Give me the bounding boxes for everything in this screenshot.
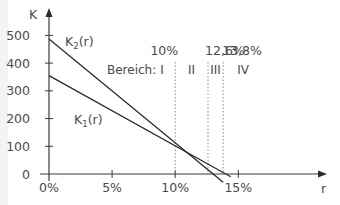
region-boundary-label: 10% xyxy=(150,43,178,58)
regions-label: Bereich: xyxy=(107,63,156,77)
y-tick-label: 0 xyxy=(22,167,30,182)
region-label: II xyxy=(188,63,195,77)
region-label: IV xyxy=(237,63,250,77)
x-axis-label: r xyxy=(321,181,327,196)
y-tick-label: 200 xyxy=(6,111,30,126)
x-tick-label: 10% xyxy=(161,180,189,195)
series-label-k1: K1(r) xyxy=(74,112,103,129)
series-label-k2: K2(r) xyxy=(65,34,94,51)
region-boundary-label: 13,8% xyxy=(222,43,262,58)
series-lines xyxy=(49,39,231,182)
y-axis-label: K xyxy=(29,7,38,22)
chart: K r 0100200300400500 0%5%10%15% 10%12,6%… xyxy=(0,0,340,205)
y-tick-label: 100 xyxy=(6,139,30,154)
x-axis-arrow-icon xyxy=(318,171,327,178)
y-tick-label: 300 xyxy=(6,83,30,98)
y-tick-label: 500 xyxy=(6,28,30,43)
y-tick-label: 400 xyxy=(6,56,30,71)
x-tick-label: 5% xyxy=(102,180,122,195)
series-line xyxy=(49,39,223,182)
x-tick-label: 15% xyxy=(224,180,252,195)
region-label: III xyxy=(210,63,221,77)
region-label: I xyxy=(160,63,164,77)
x-tick-label: 0% xyxy=(39,180,59,195)
y-axis-arrow-icon xyxy=(46,8,53,17)
y-ticks: 0100200300400500 xyxy=(6,28,53,182)
region-labels: IIIIIIIV xyxy=(160,63,249,77)
